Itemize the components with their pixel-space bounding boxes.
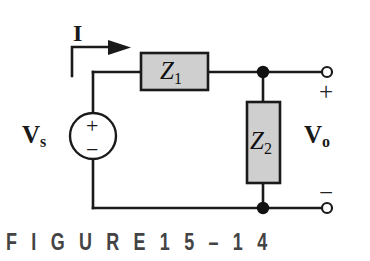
source-label: Vs [22,122,46,150]
source-label-name: V [22,121,40,148]
impedance-z1-label: Z1 [160,58,182,87]
source-minus-sign: − [86,139,98,161]
impedance-z1-subscript: 1 [174,70,182,87]
output-terminal-positive [322,67,332,77]
impedance-z2-subscript: 2 [264,140,272,157]
source-label-subscript: s [40,133,46,150]
output-label-name: V [304,121,322,148]
current-label: I [73,21,82,45]
terminal-plus-sign: + [319,79,333,104]
figure-caption: F I G U R E 1 5 – 1 4 [6,229,272,256]
impedance-z1-symbol: Z [160,57,174,84]
terminal-minus-sign: − [319,180,333,205]
impedance-z2-label: Z2 [250,128,272,157]
junction-node-bottom [257,202,269,214]
figure-15-14: I Vs Vo Z1 Z2 + − + − F I G U R E 1 5 – … [0,0,370,261]
junction-node-top [257,66,269,78]
current-arrow-head [108,40,131,55]
output-label-subscript: o [322,133,330,150]
output-label: Vo [304,122,330,150]
source-plus-sign: + [86,115,98,137]
impedance-z2-symbol: Z [250,127,264,154]
